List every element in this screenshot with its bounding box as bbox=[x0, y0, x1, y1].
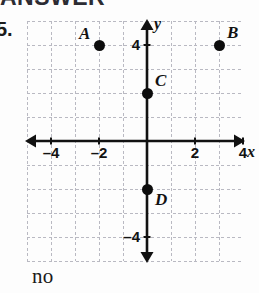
data-point-b bbox=[214, 40, 225, 51]
point-label-b: B bbox=[227, 23, 238, 43]
worksheet-figure: ANSWER 5. no –4–2244–4xyABCD bbox=[0, 0, 259, 293]
data-point-d bbox=[142, 184, 153, 195]
x-tick-label-4: 4 bbox=[239, 144, 247, 161]
point-label-d: D bbox=[155, 190, 167, 210]
page-heading: ANSWER bbox=[0, 0, 190, 8]
x-tick-label-2: 2 bbox=[191, 144, 199, 161]
grid-lines bbox=[27, 21, 243, 262]
point-label-a: A bbox=[79, 24, 90, 44]
answer-text: no bbox=[32, 264, 54, 289]
x-tick-label--4: –4 bbox=[43, 144, 60, 161]
y-axis-label: y bbox=[154, 15, 161, 33]
data-point-c bbox=[142, 88, 153, 99]
x-tick-label--2: –2 bbox=[91, 144, 108, 161]
x-axis-label: x bbox=[247, 143, 255, 161]
coordinate-plane bbox=[27, 21, 243, 262]
y-tick-label-4: 4 bbox=[132, 36, 140, 53]
question-number: 5. bbox=[0, 18, 13, 41]
page-heading-clip: ANSWER bbox=[0, 0, 190, 8]
point-label-c: C bbox=[155, 71, 166, 91]
y-tick-label--4: –4 bbox=[123, 228, 140, 245]
data-point-a bbox=[94, 40, 105, 51]
